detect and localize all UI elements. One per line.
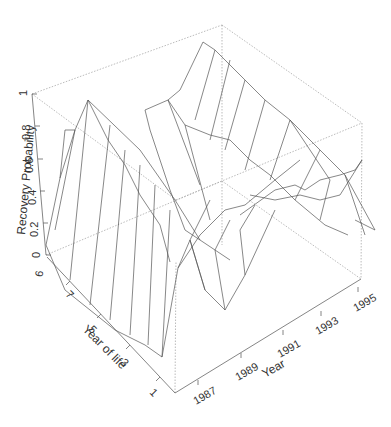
svg-text:1993: 1993 xyxy=(313,314,340,337)
x-tick-labels: 1987 1989 1991 1993 1995 xyxy=(191,291,378,407)
z-axis-label: Recovery Probability xyxy=(14,124,38,235)
svg-text:0.2: 0.2 xyxy=(28,222,40,237)
svg-text:9: 9 xyxy=(33,270,46,278)
surface-wireframe xyxy=(46,42,375,357)
svg-text:0: 0 xyxy=(30,252,42,258)
svg-text:1: 1 xyxy=(148,386,161,399)
svg-text:1995: 1995 xyxy=(351,291,378,314)
x-axis-label: Year xyxy=(260,356,288,380)
svg-text:1: 1 xyxy=(17,90,29,96)
svg-text:1989: 1989 xyxy=(233,360,260,383)
y-axis-label: Year of life xyxy=(80,322,130,372)
surface-plot: 1 0.8 0.6 0.4 0.2 0 Recovery Probability… xyxy=(0,0,391,427)
y-axis xyxy=(47,257,175,393)
svg-text:1987: 1987 xyxy=(191,384,218,407)
bounding-box xyxy=(32,25,362,393)
